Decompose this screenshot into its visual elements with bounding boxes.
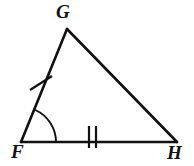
vertex-label-h: H	[167, 143, 182, 162]
vertex-label-g: G	[56, 2, 70, 21]
vertex-label-f: F	[11, 142, 24, 161]
triangle-diagram-svg	[0, 0, 194, 166]
geometry-figure: G F H	[0, 0, 194, 166]
